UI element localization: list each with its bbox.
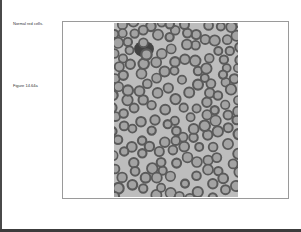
page-bottom-border: [0, 229, 301, 232]
slide-caption: Normal red cells.: [13, 21, 43, 26]
figure-label: Figure 14.64a: [13, 83, 38, 88]
red-cell-micrograph: [114, 23, 238, 197]
blood-cells-image: [114, 23, 238, 197]
page-left-border: [0, 0, 2, 232]
